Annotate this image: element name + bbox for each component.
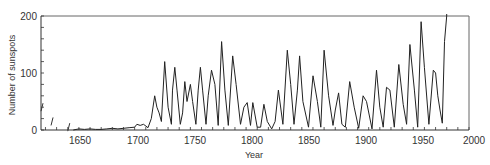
x-tick-label-1950: 1950: [412, 135, 435, 146]
x-tick-label-1750: 1750: [184, 135, 207, 146]
x-tick-label-1900: 1900: [355, 135, 378, 146]
early-observation-marks: [41, 103, 70, 131]
tick-labels: 0 100 200 1650 1700 1750 1800 1850 1900 …: [20, 11, 485, 146]
y-axis-title: Number of sunspots: [7, 34, 17, 115]
x-tick-label-1650: 1650: [69, 135, 92, 146]
x-tick-label-1700: 1700: [127, 135, 150, 146]
x-tick-label-1850: 1850: [298, 135, 321, 146]
y-tick-label-0: 0: [31, 125, 37, 136]
sunspot-series-line: [73, 14, 446, 130]
sunspot-chart: 0 100 200 1650 1700 1750 1800 1850 1900 …: [0, 0, 490, 165]
x-tick-label-2000: 2000: [463, 135, 486, 146]
x-tick-label-1800: 1800: [241, 135, 264, 146]
y-tick-label-100: 100: [20, 68, 37, 79]
x-axis-title: Year: [245, 150, 263, 160]
y-tick-label-200: 200: [20, 11, 37, 22]
